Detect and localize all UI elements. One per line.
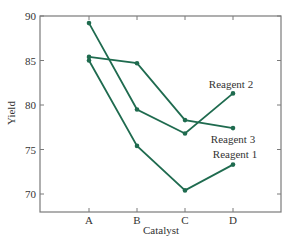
- x-axis-title: Catalyst: [143, 224, 179, 236]
- x-tick-label: A: [85, 214, 93, 226]
- data-point: [231, 91, 236, 96]
- x-tick-label: B: [133, 214, 140, 226]
- y-tick-label: 80: [25, 99, 37, 111]
- data-point: [87, 55, 92, 60]
- data-point: [231, 162, 236, 167]
- data-point: [135, 144, 140, 149]
- series-line: [89, 57, 233, 128]
- plot-frame: [40, 16, 281, 212]
- data-point: [87, 21, 92, 26]
- x-tick-label: D: [229, 214, 237, 226]
- y-tick-label: 75: [25, 144, 37, 156]
- y-tick-label: 90: [25, 10, 37, 22]
- series-lines: [87, 21, 236, 193]
- x-tick-label: C: [181, 214, 188, 226]
- series-label: Reagent 2: [209, 78, 253, 90]
- data-point: [135, 61, 140, 66]
- interaction-plot: 7075808590 ABCD Reagent 2Reagent 3Reagen…: [0, 0, 294, 248]
- series-label: Reagent 1: [213, 148, 257, 160]
- data-point: [231, 126, 236, 131]
- y-tick-label: 70: [25, 188, 37, 200]
- data-point: [183, 118, 188, 123]
- data-point: [183, 131, 188, 136]
- series-reagent-3: [87, 55, 236, 131]
- series-labels: Reagent 2Reagent 3Reagent 1: [209, 78, 257, 160]
- y-axis-title: Yield: [5, 101, 17, 125]
- y-tick-label: 85: [25, 55, 37, 67]
- series-label: Reagent 3: [211, 133, 256, 145]
- y-axis: 7075808590: [25, 10, 281, 200]
- data-point: [135, 107, 140, 112]
- data-point: [183, 188, 188, 193]
